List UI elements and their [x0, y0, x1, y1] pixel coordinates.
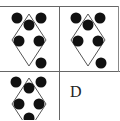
- black-dot: [83, 20, 94, 31]
- black-dot: [36, 77, 47, 88]
- answer-option-label: D: [70, 83, 82, 101]
- puzzle-cell-top-right: [71, 13, 107, 69]
- black-dot: [71, 13, 82, 24]
- black-dot: [36, 58, 47, 69]
- black-dot: [14, 36, 25, 47]
- black-dot: [14, 99, 25, 110]
- black-dot: [73, 36, 84, 47]
- black-dot: [96, 58, 107, 69]
- black-dot: [24, 113, 35, 121]
- black-dot: [24, 83, 35, 94]
- black-dot: [34, 36, 45, 47]
- puzzle-grid: [0, 0, 120, 120]
- black-dot: [34, 99, 45, 110]
- black-dot: [36, 13, 47, 24]
- puzzle-cell-bottom-left: [11, 77, 47, 121]
- black-dot: [11, 77, 22, 88]
- black-dot: [12, 13, 23, 24]
- black-dot: [93, 36, 104, 47]
- black-dot: [95, 13, 106, 24]
- black-dot: [24, 20, 35, 31]
- puzzle-cell-top-left: [12, 13, 47, 69]
